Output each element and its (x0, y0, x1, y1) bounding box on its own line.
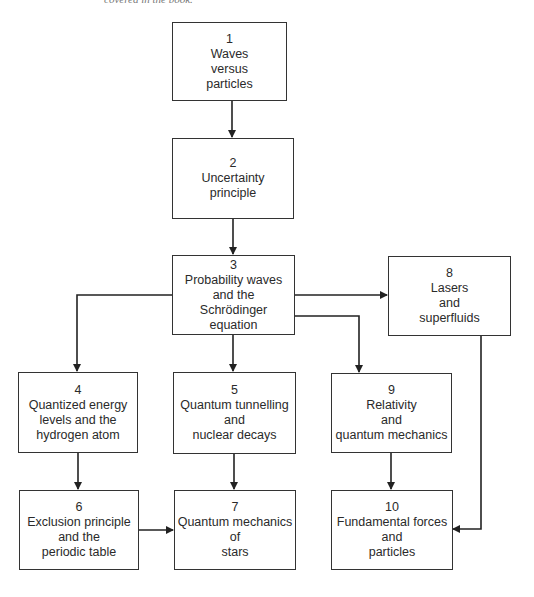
node-1-waves-versus-particles: 1 Waves versus particles (172, 22, 287, 101)
node-label: Probability waves (185, 273, 282, 288)
arrow-8-10 (453, 335, 481, 529)
node-label: levels and the (39, 413, 116, 428)
node-2-uncertainty-principle: 2 Uncertainty principle (172, 138, 294, 219)
node-label: particles (369, 545, 416, 560)
node-number: 2 (230, 156, 237, 171)
node-number: 5 (231, 383, 238, 398)
node-6-exclusion-principle: 6 Exclusion principle and the periodic t… (19, 490, 139, 570)
node-label: Waves (211, 47, 249, 62)
node-number: 7 (232, 500, 239, 515)
node-label: equation (210, 318, 258, 333)
node-label: Relativity (366, 398, 417, 413)
node-label: principle (210, 186, 257, 201)
node-9-relativity-quantum-mechanics: 9 Relativity and quantum mechanics (331, 373, 452, 453)
node-3-probability-waves: 3 Probability waves and the Schrödinger … (172, 255, 295, 335)
node-label: and (382, 530, 403, 545)
node-4-quantized-energy-levels: 4 Quantized energy levels and the hydrog… (18, 372, 138, 453)
node-number: 1 (226, 32, 233, 47)
node-label: nuclear decays (192, 428, 276, 443)
node-label: of (230, 530, 240, 545)
node-label: quantum mechanics (336, 428, 448, 443)
node-label: and (439, 296, 460, 311)
node-number: 9 (388, 383, 395, 398)
node-label: periodic table (42, 545, 116, 560)
node-8-lasers-superfluids: 8 Lasers and superfluids (388, 256, 511, 336)
node-number: 3 (230, 258, 237, 273)
arrow-3-4 (77, 295, 172, 371)
node-label: stars (221, 545, 248, 560)
node-label: Schrödinger (200, 303, 267, 318)
node-label: Fundamental forces (337, 515, 447, 530)
node-number: 4 (75, 383, 82, 398)
node-label: Quantum mechanics (178, 515, 293, 530)
node-label: and the (213, 288, 255, 303)
node-label: Quantum tunnelling (180, 398, 288, 413)
node-label: superfluids (419, 311, 479, 326)
node-number: 6 (76, 500, 83, 515)
node-10-fundamental-forces: 10 Fundamental forces and particles (331, 490, 453, 570)
node-5-quantum-tunnelling: 5 Quantum tunnelling and nuclear decays (173, 372, 296, 454)
node-label: versus (211, 62, 248, 77)
node-label: and (381, 413, 402, 428)
node-number: 10 (385, 500, 399, 515)
node-label: and (224, 413, 245, 428)
node-label: Lasers (431, 281, 469, 296)
node-label: particles (206, 77, 253, 92)
node-number: 8 (446, 266, 453, 281)
node-label: Exclusion principle (27, 515, 131, 530)
node-label: hydrogen atom (36, 428, 119, 443)
node-label: Quantized energy (29, 398, 128, 413)
node-label: Uncertainty (201, 171, 264, 186)
node-label: and the (58, 530, 100, 545)
node-7-quantum-mechanics-of-stars: 7 Quantum mechanics of stars (174, 490, 296, 570)
arrow-3-9 (294, 316, 359, 372)
